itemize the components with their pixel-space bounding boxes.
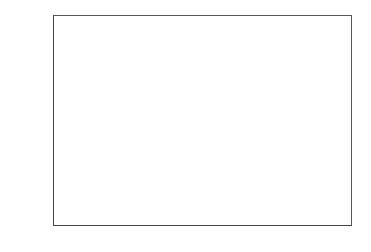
plot-area: [53, 15, 352, 226]
